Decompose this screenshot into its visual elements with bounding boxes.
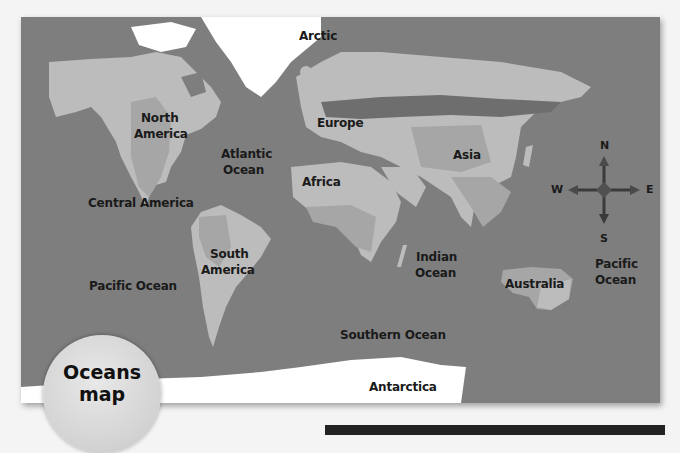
central-africa-dark-shape [306, 205, 376, 252]
arctic-islands-shape [131, 22, 196, 52]
indian-ocean-label-line1: Indian [416, 250, 457, 264]
iceland-shape [300, 66, 312, 78]
south-america-label-line1: South [210, 247, 249, 261]
compass-rose [568, 156, 640, 224]
compass-east-label: E [646, 183, 654, 196]
pacific-ocean-east-label-line1: Pacific [595, 257, 638, 271]
asia-label: Asia [453, 148, 481, 162]
pacific-ocean-west-label: Pacific Ocean [89, 279, 177, 293]
central-america-label: Central America [88, 196, 194, 210]
photo-strip [325, 425, 665, 435]
compass-south-label: S [600, 232, 608, 245]
atlantic-ocean-label-line2: Ocean [223, 163, 264, 177]
pacific-ocean-east-label-line2: Ocean [595, 273, 636, 287]
atlantic-ocean-label-line1: Atlantic [221, 147, 272, 161]
north-america-label-line1: North [141, 111, 179, 125]
madagascar-shape [397, 245, 407, 267]
badge-line1: Oceans [43, 361, 161, 383]
compass-west-label: W [551, 183, 563, 196]
japan-shape [523, 145, 533, 167]
badge-title: Oceans map [43, 361, 161, 405]
compass-north-label: N [600, 139, 609, 152]
oceans-map-badge: Oceans map [43, 335, 161, 453]
australia-label: Australia [505, 277, 564, 291]
arctic-label: Arctic [299, 29, 337, 43]
indian-ocean-label-line2: Ocean [415, 266, 456, 280]
badge-line2: map [43, 383, 161, 405]
africa-label: Africa [302, 175, 341, 189]
antarctica-label: Antarctica [369, 380, 437, 394]
north-america-label-line2: America [134, 127, 188, 141]
europe-label: Europe [317, 116, 363, 130]
south-america-label-line2: America [201, 263, 255, 277]
southern-ocean-label: Southern Ocean [340, 328, 446, 342]
